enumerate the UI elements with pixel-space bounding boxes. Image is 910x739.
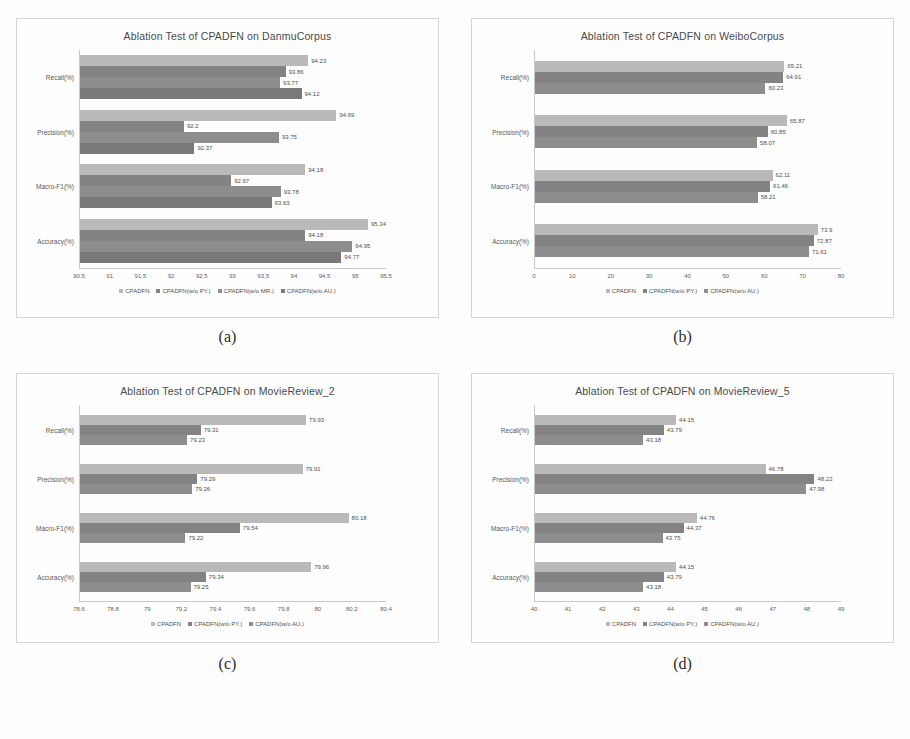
legend-swatch-icon <box>281 289 285 293</box>
bar <box>80 230 305 241</box>
legend-item[interactable]: CPADFN <box>606 288 636 294</box>
bar-row: 47.98 <box>535 484 841 494</box>
legend-item[interactable]: CPADFN(w/o PY.) <box>156 288 210 294</box>
bar <box>80 121 184 132</box>
bar <box>80 425 201 435</box>
legend-item[interactable]: CPADFN(w/o AU.) <box>704 621 759 627</box>
bar-group: Accuracy(%)95.3494.1894.9594.77 <box>80 214 386 269</box>
bar <box>535 83 765 94</box>
bar <box>535 523 684 533</box>
bar-row: 93.78 <box>80 186 386 197</box>
legend-swatch-icon <box>119 289 123 293</box>
bar-value-label: 94.77 <box>344 254 359 260</box>
x-axis-ticks: 01020304050607080 <box>534 269 841 285</box>
bar <box>535 170 773 181</box>
x-tick-label: 10 <box>569 273 576 279</box>
bar-row: 72.87 <box>535 235 841 246</box>
legend-item[interactable]: CPADFN(w/o AU.) <box>249 621 304 627</box>
bar-value-label: 61.46 <box>773 183 788 189</box>
bar-value-label: 79.22 <box>188 535 203 541</box>
category-label: Accuracy(%) <box>492 237 529 244</box>
bar-row: 93.86 <box>80 66 386 77</box>
bar-value-label: 47.98 <box>809 486 824 492</box>
x-tick-label: 47 <box>769 606 776 612</box>
chart-panel: Ablation Test of CPADFN on MovieReview_5… <box>471 373 894 643</box>
bar <box>535 533 663 543</box>
x-tick-label: 91.5 <box>135 273 147 279</box>
legend-label: CPADFN(w/o AU.) <box>710 621 759 627</box>
bar-value-label: 94.69 <box>339 112 354 118</box>
bar-value-label: 94.23 <box>311 58 326 64</box>
figure-panel-c: Ablation Test of CPADFN on MovieReview_2… <box>0 355 455 715</box>
x-axis: 78.678.87979.279.479.679.88080.280.4 <box>79 601 386 618</box>
chart-title: Ablation Test of CPADFN on WeiboCorpus <box>472 19 893 42</box>
category-label: Recall(%) <box>46 74 74 81</box>
x-tick-label: 80 <box>314 606 321 612</box>
bar-group: Precision(%)79.9179.2979.26 <box>80 454 386 503</box>
bar-group: Precision(%)46.7848.2247.98 <box>535 454 841 503</box>
legend-swatch-icon <box>218 289 222 293</box>
bar-row: 93.77 <box>80 77 386 88</box>
bar-value-label: 58.21 <box>761 194 776 200</box>
x-tick-label: 45 <box>701 606 708 612</box>
bar-row: 43.79 <box>535 425 841 435</box>
legend-item[interactable]: CPADFN(w/o PY.) <box>188 621 242 627</box>
legend-item[interactable]: CPADFN(w/o PY.) <box>643 621 697 627</box>
bar-groups: Recall(%)65.2164.9160.23Precision(%)65.8… <box>535 50 841 268</box>
bar <box>535 562 676 572</box>
x-tick-label: 95 <box>352 273 359 279</box>
x-tick-label: 60 <box>761 273 768 279</box>
bar <box>80 582 191 592</box>
bar-value-label: 44.37 <box>687 525 702 531</box>
bar <box>535 484 806 494</box>
bar-value-label: 93.77 <box>283 80 298 86</box>
x-tick-label: 80.2 <box>346 606 358 612</box>
category-label: Macro-F1(%) <box>36 524 74 531</box>
subfigure-caption: (b) <box>455 328 910 346</box>
bar-value-label: 44.15 <box>679 417 694 423</box>
x-tick-label: 79.6 <box>244 606 256 612</box>
legend-swatch-icon <box>606 622 610 626</box>
bar-row: 43.18 <box>535 582 841 592</box>
figure-panel-b: Ablation Test of CPADFN on WeiboCorpusRe… <box>455 0 910 355</box>
x-tick-label: 80.4 <box>380 606 392 612</box>
x-axis-ticks: 78.678.87979.279.479.679.88080.280.4 <box>79 602 386 618</box>
bar-value-label: 65.21 <box>787 63 802 69</box>
bar-value-label: 43.18 <box>646 437 661 443</box>
legend-item[interactable]: CPADFN(w/o AU.) <box>704 288 759 294</box>
bar-row: 73.9 <box>535 224 841 235</box>
bar <box>535 474 814 484</box>
bar-row: 94.12 <box>80 88 386 99</box>
legend-swatch-icon <box>188 622 192 626</box>
bar-row: 79.96 <box>80 562 386 572</box>
bar-row: 58.21 <box>535 192 841 203</box>
legend-item[interactable]: CPADFN(w/o AU.) <box>281 288 336 294</box>
bar-value-label: 79.96 <box>314 564 329 570</box>
category-label: Accuracy(%) <box>37 573 74 580</box>
bar-row: 48.22 <box>535 474 841 484</box>
bar-value-label: 79.25 <box>194 584 209 590</box>
legend-label: CPADFN(w/o AU.) <box>255 621 304 627</box>
bar-row: 79.22 <box>80 533 386 543</box>
legend-item[interactable]: CPADFN <box>151 621 181 627</box>
legend-item[interactable]: CPADFN(w/o MR.) <box>218 288 274 294</box>
bar <box>80 110 336 121</box>
x-tick-label: 94.5 <box>319 273 331 279</box>
x-axis-ticks: 90.59191.59292.59393.59494.59595.5 <box>79 269 386 285</box>
bar-row: 43.79 <box>535 572 841 582</box>
bar-group: Macro-F1(%)44.7644.3743.75 <box>535 503 841 552</box>
figure-panel-a: Ablation Test of CPADFN on DanmuCorpusRe… <box>0 0 455 355</box>
legend-item[interactable]: CPADFN <box>606 621 636 627</box>
plot-area: Recall(%)79.9379.3179.23Precision(%)79.9… <box>79 405 386 601</box>
bar-group: Recall(%)79.9379.3179.23 <box>80 405 386 454</box>
bar <box>80 88 302 99</box>
bar-value-label: 79.31 <box>204 427 219 433</box>
bar-value-label: 44.76 <box>700 515 715 521</box>
legend-item[interactable]: CPADFN(w/o PY.) <box>643 288 697 294</box>
legend-item[interactable]: CPADFN <box>119 288 149 294</box>
bar-row: 58.07 <box>535 137 841 148</box>
x-tick-label: 93.5 <box>257 273 269 279</box>
bar-row: 60.85 <box>535 126 841 137</box>
bar-value-label: 79.54 <box>243 525 258 531</box>
bar-value-label: 92.2 <box>187 123 199 129</box>
